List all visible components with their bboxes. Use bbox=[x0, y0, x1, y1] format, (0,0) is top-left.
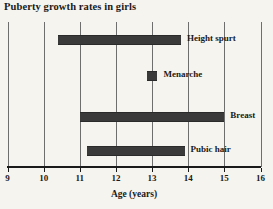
gridline-age-10 bbox=[44, 22, 45, 167]
gridline-age-9 bbox=[8, 22, 9, 167]
x-axis-line bbox=[7, 166, 261, 168]
bar-breast bbox=[80, 112, 225, 122]
x-axis-title: Age (years) bbox=[111, 189, 157, 199]
bar-pubic-hair bbox=[87, 146, 185, 156]
chart-figure: Puberty growth rates in girls 9101112131… bbox=[0, 0, 273, 209]
gridline-age-14 bbox=[188, 22, 189, 167]
bar-label-breast: Breast bbox=[230, 110, 255, 120]
plot-area: 910111213141516 Age (years) Height spurt… bbox=[0, 0, 273, 209]
x-tick-label-9: 9 bbox=[5, 173, 10, 183]
bar-label-menarche: Menarche bbox=[163, 69, 202, 79]
x-tick-label-16: 16 bbox=[256, 173, 265, 183]
x-tick-mark-11 bbox=[80, 168, 81, 172]
x-tick-mark-10 bbox=[44, 168, 45, 172]
x-tick-mark-13 bbox=[152, 168, 153, 172]
bar-height-spurt bbox=[58, 35, 181, 45]
bar-label-pubic-hair: Pubic hair bbox=[191, 144, 231, 154]
x-tick-label-15: 15 bbox=[220, 173, 229, 183]
x-tick-mark-16 bbox=[261, 168, 262, 172]
x-tick-label-14: 14 bbox=[184, 173, 193, 183]
x-tick-label-12: 12 bbox=[111, 173, 120, 183]
x-tick-label-11: 11 bbox=[76, 173, 85, 183]
x-tick-mark-9 bbox=[8, 168, 9, 172]
bar-label-height-spurt: Height spurt bbox=[187, 33, 236, 43]
x-tick-label-13: 13 bbox=[148, 173, 157, 183]
x-tick-mark-12 bbox=[116, 168, 117, 172]
bar-menarche bbox=[147, 71, 158, 81]
x-tick-label-10: 10 bbox=[39, 173, 48, 183]
x-tick-mark-14 bbox=[188, 168, 189, 172]
x-tick-mark-15 bbox=[224, 168, 225, 172]
gridline-age-16 bbox=[261, 22, 262, 167]
